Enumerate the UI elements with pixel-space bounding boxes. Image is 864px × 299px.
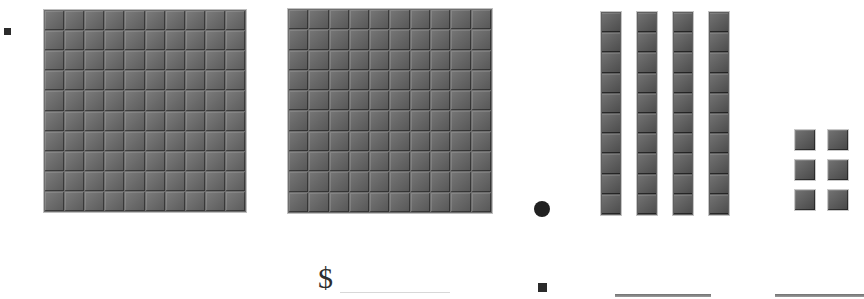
flat-unit-cell bbox=[125, 132, 144, 151]
flat-unit-cell bbox=[85, 192, 104, 211]
flat-unit-cell bbox=[186, 192, 205, 211]
flat-unit-cell bbox=[289, 111, 308, 130]
currency-answer-blank[interactable] bbox=[340, 292, 450, 293]
flat-unit-cell bbox=[309, 30, 328, 49]
ten-rod bbox=[637, 12, 657, 215]
flat-unit-cell bbox=[125, 172, 144, 191]
flat-unit-cell bbox=[451, 193, 470, 212]
unit-cube bbox=[795, 160, 815, 180]
flat-unit-cell bbox=[451, 152, 470, 171]
flat-unit-cell bbox=[226, 31, 245, 50]
answer-blank-2[interactable] bbox=[775, 294, 864, 297]
flat-unit-cell bbox=[206, 91, 225, 110]
flat-unit-cell bbox=[226, 112, 245, 131]
flat-unit-cell bbox=[146, 11, 165, 30]
flat-unit-cell bbox=[472, 193, 491, 212]
flat-unit-cell bbox=[451, 71, 470, 90]
flat-unit-cell bbox=[105, 152, 124, 171]
flat-unit-cell bbox=[206, 152, 225, 171]
flat-unit-cell bbox=[105, 91, 124, 110]
flat-unit-cell bbox=[350, 91, 369, 110]
rod-segment bbox=[638, 114, 656, 133]
bullet-marker-icon-secondary bbox=[538, 283, 547, 292]
flat-unit-cell bbox=[350, 51, 369, 70]
rod-segment bbox=[638, 94, 656, 113]
flat-unit-cell bbox=[85, 91, 104, 110]
flat-unit-cell bbox=[390, 30, 409, 49]
flat-unit-cell bbox=[45, 71, 64, 90]
flat-unit-cell bbox=[85, 51, 104, 70]
flat-unit-cell bbox=[289, 172, 308, 191]
decimal-point-icon bbox=[534, 201, 550, 217]
flat-unit-cell bbox=[411, 172, 430, 191]
flat-unit-cell bbox=[125, 152, 144, 171]
flat-unit-cell bbox=[45, 31, 64, 50]
flat-unit-cell bbox=[289, 152, 308, 171]
rod-segment bbox=[710, 114, 728, 133]
flat-unit-cell bbox=[125, 31, 144, 50]
flat-unit-cell bbox=[411, 30, 430, 49]
answer-blank-1[interactable] bbox=[615, 294, 711, 297]
flat-unit-cell bbox=[186, 31, 205, 50]
rod-segment bbox=[638, 175, 656, 194]
flat-unit-cell bbox=[85, 172, 104, 191]
flat-unit-cell bbox=[65, 71, 84, 90]
flat-unit-cell bbox=[309, 71, 328, 90]
rod-segment bbox=[638, 195, 656, 214]
flat-unit-cell bbox=[125, 51, 144, 70]
flat-unit-cell bbox=[451, 172, 470, 191]
flat-unit-cell bbox=[146, 112, 165, 131]
flat-unit-cell bbox=[330, 152, 349, 171]
flat-unit-cell bbox=[226, 192, 245, 211]
flat-unit-cell bbox=[350, 152, 369, 171]
flat-unit-cell bbox=[226, 71, 245, 90]
flat-unit-cell bbox=[206, 71, 225, 90]
flat-unit-cell bbox=[45, 51, 64, 70]
rod-segment bbox=[674, 154, 692, 173]
hundred-flat bbox=[288, 9, 492, 213]
flat-unit-cell bbox=[370, 172, 389, 191]
flat-unit-cell bbox=[451, 111, 470, 130]
flat-unit-cell bbox=[411, 132, 430, 151]
flat-unit-cell bbox=[45, 91, 64, 110]
flat-unit-cell bbox=[309, 172, 328, 191]
flat-unit-cell bbox=[186, 91, 205, 110]
flat-unit-cell bbox=[166, 11, 185, 30]
flat-unit-cell bbox=[226, 132, 245, 151]
flat-unit-cell bbox=[186, 11, 205, 30]
unit-cube bbox=[828, 190, 848, 210]
flat-unit-cell bbox=[411, 51, 430, 70]
rod-segment bbox=[710, 134, 728, 153]
rod-segment bbox=[602, 134, 620, 153]
rod-segment bbox=[602, 74, 620, 93]
flat-unit-cell bbox=[125, 11, 144, 30]
flat-unit-cell bbox=[370, 71, 389, 90]
flat-unit-cell bbox=[45, 192, 64, 211]
flat-unit-cell bbox=[370, 51, 389, 70]
flat-unit-cell bbox=[45, 152, 64, 171]
flat-unit-cell bbox=[105, 51, 124, 70]
flat-unit-cell bbox=[309, 10, 328, 29]
flat-unit-cell bbox=[85, 132, 104, 151]
rod-segment bbox=[674, 134, 692, 153]
worksheet-page: $ bbox=[0, 0, 864, 299]
flat-unit-cell bbox=[206, 51, 225, 70]
flat-unit-cell bbox=[390, 132, 409, 151]
flat-unit-cell bbox=[186, 152, 205, 171]
flat-unit-cell bbox=[330, 193, 349, 212]
flat-unit-cell bbox=[146, 132, 165, 151]
rod-segment bbox=[638, 154, 656, 173]
flat-unit-cell bbox=[45, 132, 64, 151]
flat-unit-cell bbox=[206, 192, 225, 211]
rod-segment bbox=[602, 33, 620, 52]
rod-segment bbox=[674, 195, 692, 214]
flat-unit-cell bbox=[390, 91, 409, 110]
flat-unit-cell bbox=[330, 51, 349, 70]
flat-unit-cell bbox=[411, 10, 430, 29]
rod-segment bbox=[710, 13, 728, 32]
rod-segment bbox=[674, 53, 692, 72]
hundred-flat bbox=[44, 10, 246, 212]
flat-unit-cell bbox=[472, 51, 491, 70]
flat-unit-cell bbox=[45, 112, 64, 131]
flat-unit-cell bbox=[390, 10, 409, 29]
